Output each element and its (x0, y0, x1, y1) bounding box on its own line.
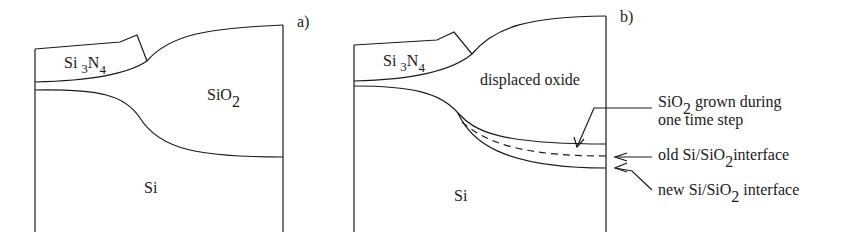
old-interface-annotation: old Si/SiO2interface (658, 146, 789, 170)
grown-leader-line (577, 108, 652, 147)
nitride-label: Si3N4 (383, 52, 425, 75)
sio2-grown-top (354, 86, 606, 144)
new-arrowhead-icon (615, 163, 627, 172)
si-sio2-interface (35, 90, 283, 157)
nitride-top (354, 32, 472, 54)
panel-b-label: b) (620, 8, 633, 26)
panel-a: Si3N4 SiO2 Si a) (35, 13, 309, 232)
new-interface-arrow (615, 168, 652, 190)
old-si-sio2-interface (462, 122, 606, 156)
sio2-label: SiO2 (207, 86, 240, 110)
displaced-oxide-label: displaced oxide (480, 71, 580, 89)
locos-oxidation-diagram: Si3N4 SiO2 Si a) Si3N4 displaced oxide S… (0, 0, 848, 243)
grown-annotation-line2: one time step (658, 111, 743, 129)
panel-b: Si3N4 displaced oxide Si b) SiO2 grown d… (354, 8, 799, 232)
si-label: Si (454, 187, 468, 204)
nitride-label: Si3N4 (64, 54, 106, 77)
oxide-top-surface (472, 16, 606, 54)
new-interface-annotation: new Si/SiO2 interface (658, 181, 799, 205)
panel-a-label: a) (297, 13, 309, 31)
si-label: Si (144, 179, 158, 196)
oxide-top-surface (147, 25, 283, 61)
